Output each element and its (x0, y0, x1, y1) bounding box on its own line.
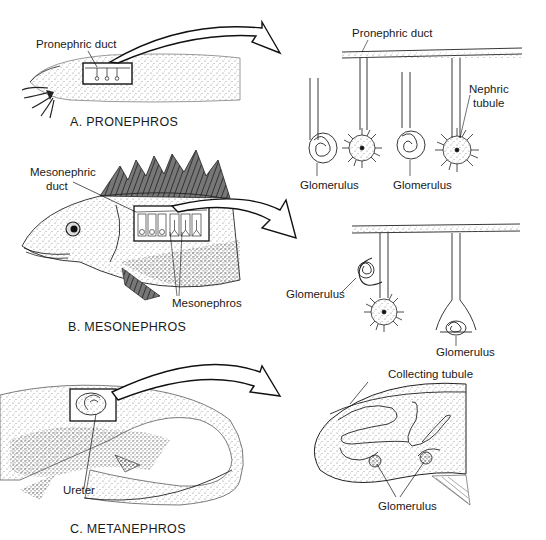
pronephros-detail (309, 48, 522, 176)
label-nephric-tubule-line1: Nephric (469, 83, 509, 96)
kidney-diagram: Pronephric duct A. PRONEPHROS Pronephric… (0, 0, 546, 540)
nephrostome-icon (364, 294, 404, 332)
label-glomerulus-b2: Glomerulus (436, 346, 495, 359)
label-nephric-tubule-line2: tubule (473, 97, 504, 110)
larva-drawing (22, 51, 240, 118)
mesonephros-detail (342, 224, 520, 346)
label-glomerulus-a2: Glomerulus (393, 179, 452, 192)
label-glomerulus-c: Glomerulus (378, 500, 437, 513)
caption-mesonephros: B. MESONEPHROS (68, 320, 186, 334)
label-glomerulus-b1: Glomerulus (286, 288, 345, 301)
label-pronephric-duct-left: Pronephric duct (36, 38, 117, 51)
label-mesonephric-duct-line1: Mesonephric (30, 166, 96, 179)
label-mesonephric-duct-line2: duct (46, 180, 68, 193)
diagram-artwork (0, 0, 546, 540)
metanephros-detail (314, 382, 470, 505)
label-glomerulus-a1: Glomerulus (300, 179, 359, 192)
label-pronephric-duct-right: Pronephric duct (352, 27, 433, 40)
caption-pronephros: A. PRONEPHROS (70, 115, 178, 129)
label-ureter: Ureter (63, 484, 95, 497)
lizard-drawing (0, 385, 243, 505)
label-collecting-tubule: Collecting tubule (388, 368, 473, 381)
nephrostome-icon (342, 128, 479, 172)
caption-metanephros: C. METANEPHROS (70, 522, 186, 536)
label-mesonephros: Mesonephros (172, 297, 242, 310)
